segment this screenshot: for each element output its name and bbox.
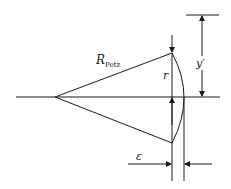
label-r: r xyxy=(163,69,169,82)
lower-radius-line xyxy=(55,97,172,143)
label-epsilon: ε xyxy=(136,150,142,163)
label-y-prime: y′ xyxy=(195,57,205,70)
petzval-surface-arc xyxy=(172,53,184,143)
petzval-diagram: RPetz r y′ ε xyxy=(0,0,231,189)
upper-radius-line xyxy=(55,53,172,97)
label-r-petz: RPetz xyxy=(95,53,120,69)
